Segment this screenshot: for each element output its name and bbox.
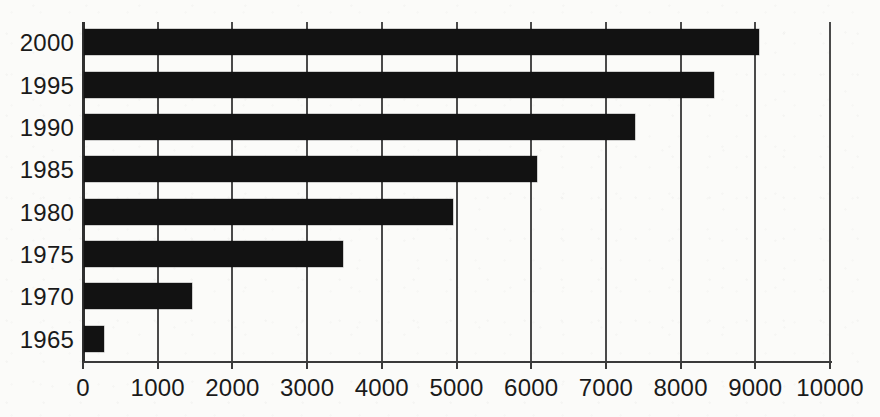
x-tick-mark-3000: [306, 362, 308, 369]
x-tick-mark-10000: [829, 362, 831, 369]
gridline-9000: [754, 22, 756, 362]
bar-1965: [84, 326, 104, 352]
x-tick-mark-7000: [605, 362, 607, 369]
x-tick-label-6000: 6000: [504, 376, 558, 400]
x-tick-mark-0: [82, 362, 84, 369]
x-tick-label-7000: 7000: [579, 376, 633, 400]
x-tick-mark-2000: [231, 362, 233, 369]
bar-1995: [84, 72, 714, 98]
bar-2000: [84, 29, 759, 55]
y-tick-label-1980: 1980: [20, 201, 74, 225]
x-tick-label-2000: 2000: [205, 376, 259, 400]
y-tick-label-1995: 1995: [20, 74, 74, 98]
y-tick-label-1975: 1975: [20, 243, 74, 267]
bar-1975: [84, 241, 343, 267]
x-tick-label-3000: 3000: [280, 376, 334, 400]
x-tick-mark-9000: [754, 362, 756, 369]
x-tick-mark-1000: [157, 362, 159, 369]
bar-1980: [84, 199, 453, 225]
bar-1970: [84, 283, 192, 309]
x-tick-mark-5000: [456, 362, 458, 369]
bar-1985: [84, 156, 537, 182]
chart-figure: 20001995199019851980197519701965 0100020…: [0, 0, 880, 417]
x-axis-line: [83, 361, 832, 363]
x-tick-label-0: 0: [76, 376, 90, 400]
x-tick-label-8000: 8000: [653, 376, 707, 400]
x-tick-mark-4000: [381, 362, 383, 369]
y-tick-label-1970: 1970: [20, 285, 74, 309]
y-axis-tick-labels: 20001995199019851980197519701965: [0, 0, 74, 417]
x-tick-mark-8000: [680, 362, 682, 369]
y-tick-label-1965: 1965: [20, 328, 74, 352]
y-tick-label-1985: 1985: [20, 158, 74, 182]
x-tick-label-9000: 9000: [728, 376, 782, 400]
y-tick-label-2000: 2000: [20, 31, 74, 55]
plot-area: [83, 22, 830, 362]
bar-1990: [84, 114, 635, 140]
x-tick-label-1000: 1000: [131, 376, 185, 400]
x-tick-label-5000: 5000: [429, 376, 483, 400]
x-tick-label-10000: 10000: [796, 376, 864, 400]
y-tick-label-1990: 1990: [20, 116, 74, 140]
x-tick-label-4000: 4000: [355, 376, 409, 400]
gridline-10000: [829, 22, 831, 362]
x-tick-mark-6000: [530, 362, 532, 369]
